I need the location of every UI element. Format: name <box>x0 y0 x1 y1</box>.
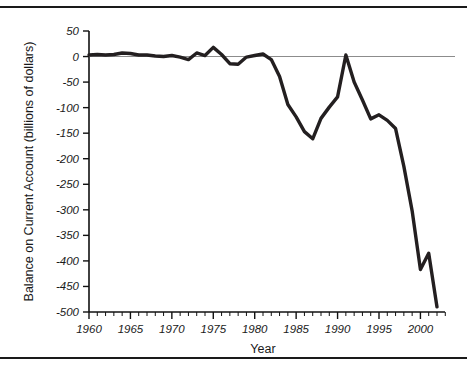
y-tick-label--400: -400 <box>56 255 80 267</box>
x-axis: 196019651970197519801985199019952000 <box>76 312 445 335</box>
y-tick-label--300: -300 <box>56 204 80 216</box>
x-tick-label-1965: 1965 <box>118 323 144 335</box>
y-tick-label--250: -250 <box>56 178 80 190</box>
current-account-line-chart: 500-50-100-150-200-250-300-350-400-450-5… <box>0 0 467 369</box>
plot-area: 500-50-100-150-200-250-300-350-400-450-5… <box>0 0 467 369</box>
y-tick-label-50: 50 <box>66 25 79 37</box>
y-tick-label-0: 0 <box>73 51 80 63</box>
x-tick-label-1970: 1970 <box>159 323 185 335</box>
data-series-line <box>89 47 437 307</box>
x-tick-label-1960: 1960 <box>76 323 102 335</box>
x-tick-label-1990: 1990 <box>325 323 351 335</box>
x-tick-label-1975: 1975 <box>200 323 226 335</box>
chart-figure: 500-50-100-150-200-250-300-350-400-450-5… <box>0 0 467 369</box>
x-tick-label-1985: 1985 <box>283 323 309 335</box>
x-tick-label-1995: 1995 <box>366 323 392 335</box>
x-axis-title: Year <box>250 342 275 356</box>
x-tick-label-1980: 1980 <box>242 323 268 335</box>
y-tick-label--50: -50 <box>62 76 79 88</box>
y-axis: 500-50-100-150-200-250-300-350-400-450-5… <box>56 25 89 318</box>
y-tick-label--450: -450 <box>56 280 80 292</box>
y-tick-label--150: -150 <box>56 127 80 139</box>
y-tick-label--100: -100 <box>56 102 80 114</box>
y-tick-label--350: -350 <box>56 229 80 241</box>
series-path-balance-on-current-account <box>89 47 437 307</box>
x-tick-label-2000: 2000 <box>407 323 434 335</box>
y-axis-title: Balance on Current Account (billions of … <box>22 42 36 302</box>
y-tick-label--500: -500 <box>56 306 80 318</box>
y-tick-label--200: -200 <box>56 153 80 165</box>
